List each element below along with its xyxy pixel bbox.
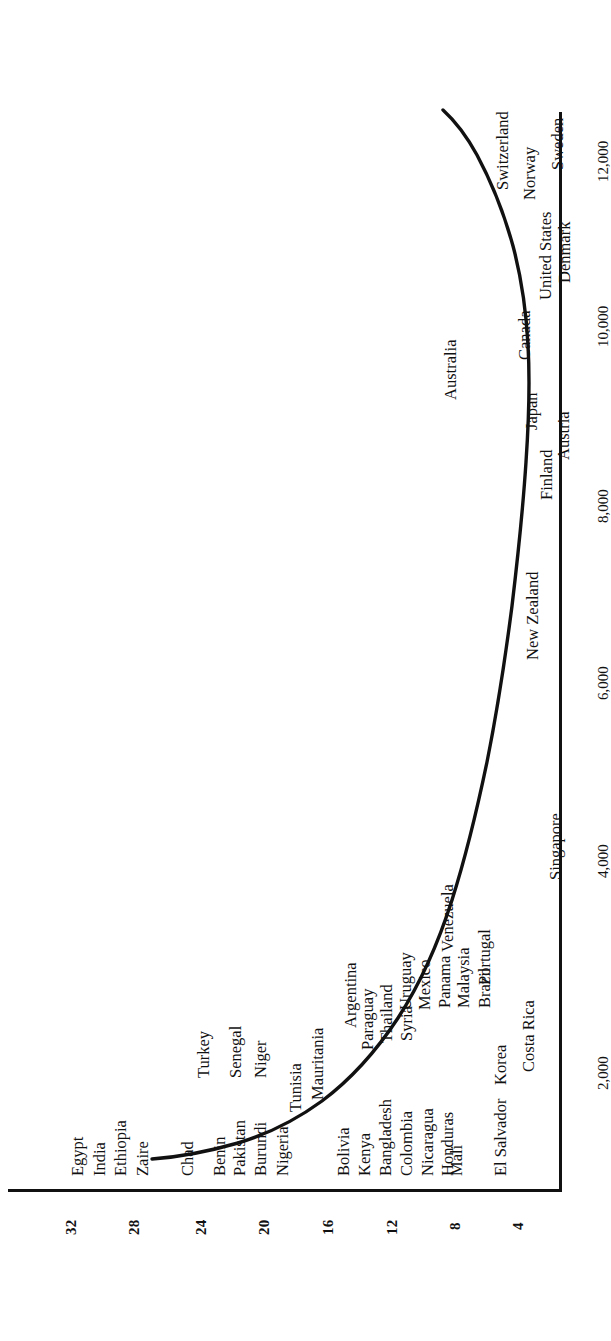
country-label-new-zealand: New Zealand: [525, 572, 542, 660]
country-label-niger: Niger: [253, 1040, 270, 1078]
country-label-nigeria: Nigeria: [275, 1127, 292, 1176]
country-label-austria: Austria: [556, 411, 573, 460]
country-label-brazil: Brazil: [477, 968, 494, 1008]
country-label-el-salvador: El Salvador: [493, 1099, 510, 1176]
country-label-canada: Canada: [517, 311, 534, 360]
country-label-ethiopia: Ethiopia: [113, 1120, 130, 1176]
country-label-uruguay: Uruguay: [398, 952, 415, 1010]
country-label-venezuela: Venezuela: [440, 884, 457, 952]
country-label-korea: Korea: [493, 1045, 510, 1085]
country-label-australia: Australia: [443, 340, 460, 400]
country-label-norway: Norway: [522, 147, 539, 200]
country-label-kenya: Kenya: [357, 1133, 374, 1176]
country-label-thailand: Thailand: [379, 984, 396, 1043]
country-label-denmark: Denmark: [557, 222, 574, 283]
country-label-bangladesh: Bangladesh: [378, 1099, 395, 1176]
country-label-mali: Mali: [449, 1145, 466, 1176]
country-label-burundi: Burundi: [253, 1122, 270, 1176]
country-label-paraguay: Paraguay: [360, 989, 377, 1050]
country-label-chad: Chad: [180, 1141, 197, 1176]
country-label-syria: Syria: [399, 1006, 416, 1041]
country-label-malaysia: Malaysia: [456, 948, 473, 1008]
country-label-benin: Benin: [212, 1137, 229, 1176]
country-label-panama: Panama: [437, 956, 454, 1008]
country-label-egypt: Egypt: [70, 1137, 87, 1176]
country-label-senegal: Senegal: [228, 1026, 245, 1078]
country-label-turkey: Turkey: [196, 1031, 213, 1078]
country-label-mauritania: Mauritania: [310, 1028, 327, 1100]
country-label-zaire: Zaire: [135, 1141, 152, 1176]
country-label-bolivia: Bolivia: [336, 1127, 353, 1176]
country-label-india: India: [92, 1142, 109, 1176]
country-label-tunisia: Tunisia: [288, 1063, 305, 1112]
country-label-singapore: Singapore: [548, 813, 565, 880]
country-label-sweden: Sweden: [550, 118, 567, 170]
country-label-nicaragua: Nicaragua: [420, 1108, 437, 1176]
country-label-united-states: United States: [538, 212, 555, 300]
country-label-mexico: Mexico: [417, 960, 434, 1010]
country-label-switzerland: Switzerland: [495, 111, 512, 190]
country-label-colombia: Colombia: [399, 1111, 416, 1176]
country-label-japan: Japan: [524, 392, 541, 430]
country-label-pakistan: Pakistan: [232, 1120, 249, 1176]
country-label-costa-rica: Costa Rica: [521, 1000, 538, 1072]
